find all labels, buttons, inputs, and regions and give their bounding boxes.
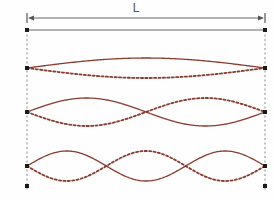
node-marker [263, 184, 267, 188]
dimension-line-group: L [27, 1, 265, 23]
dimension-label-L: L [133, 1, 140, 15]
harmonic-3-solid-curve [27, 151, 265, 181]
harmonic-waves-group [27, 58, 265, 181]
node-marker [263, 164, 267, 168]
harmonic-1-solid-curve [27, 58, 265, 68]
node-markers-group [25, 28, 267, 188]
harmonic-3-dashed-curve [27, 151, 265, 181]
harmonic-1-dashed-curve [27, 68, 265, 78]
figure-canvas: L [0, 0, 274, 200]
node-marker [263, 110, 267, 114]
node-marker [25, 66, 29, 70]
standing-wave-figure: L [0, 0, 274, 200]
node-marker [25, 164, 29, 168]
node-marker [263, 28, 267, 32]
node-marker [25, 110, 29, 114]
node-marker [25, 184, 29, 188]
dimension-arrow-right-icon [258, 15, 264, 20]
dimension-arrow-left-icon [28, 15, 34, 20]
node-marker [25, 28, 29, 32]
node-marker [263, 66, 267, 70]
harmonic-2-dashed-curve [27, 98, 265, 126]
